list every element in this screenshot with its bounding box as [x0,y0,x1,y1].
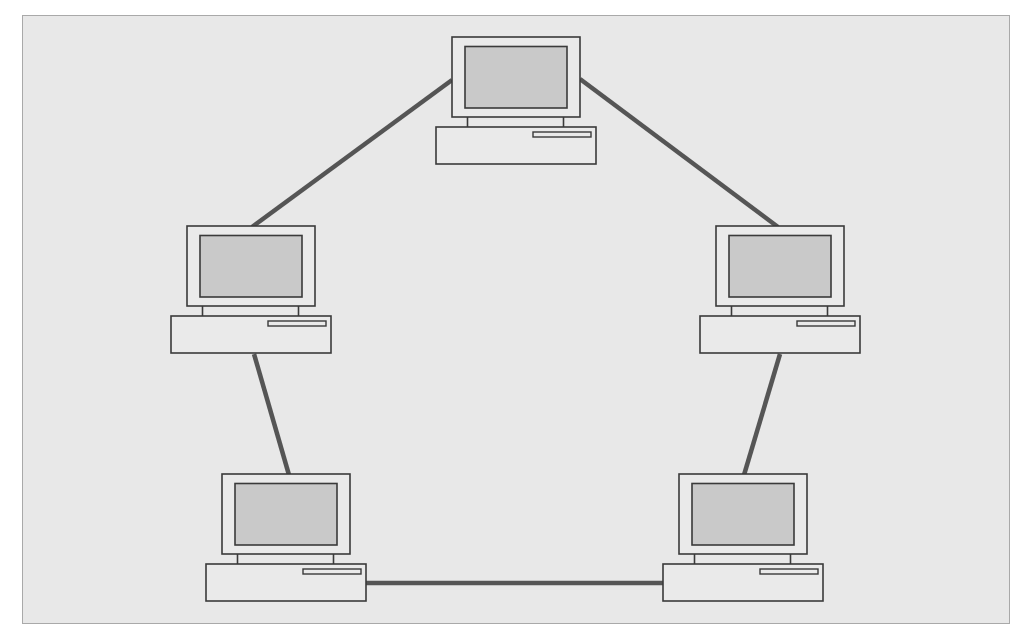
link-top-to-middle-left [252,80,452,227]
monitor-screen [465,47,567,109]
desktop-computer-icon [171,226,331,353]
monitor-screen [729,236,831,298]
computer-middle-left [171,226,331,353]
desktop-computer-icon [206,474,366,601]
drive-slot [268,321,326,326]
drive-slot [797,321,855,326]
drive-slot [303,569,361,574]
diagram-stage [0,0,1026,638]
monitor-screen [235,484,337,546]
monitor-screen [692,484,794,546]
computer-top [436,37,596,164]
desktop-computer-icon [663,474,823,601]
link-top-to-middle-right [580,79,778,227]
desktop-computer-icon [700,226,860,353]
computer-bottom-right [663,474,823,601]
link-middle-right-to-bottom-right [744,354,780,475]
link-middle-left-to-bottom-left [254,354,289,475]
computer-middle-right [700,226,860,353]
ring-network-diagram [0,0,1026,638]
drive-slot [760,569,818,574]
drive-slot [533,132,591,137]
network-nodes [171,37,860,601]
monitor-screen [200,236,302,298]
computer-bottom-left [206,474,366,601]
desktop-computer-icon [436,37,596,164]
